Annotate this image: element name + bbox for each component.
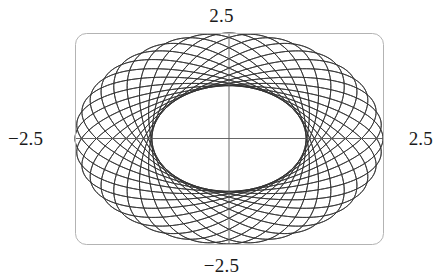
- axis-label-bottom: −2.5: [0, 256, 443, 275]
- axis-label-left: −2.5: [8, 129, 43, 148]
- canvas-background: [0, 0, 443, 280]
- axis-label-right: 2.5: [409, 129, 433, 148]
- axis-label-top: 2.5: [0, 6, 443, 25]
- plot-canvas: [0, 0, 443, 280]
- plot-figure: 2.5 −2.5 −2.5 2.5: [0, 0, 443, 280]
